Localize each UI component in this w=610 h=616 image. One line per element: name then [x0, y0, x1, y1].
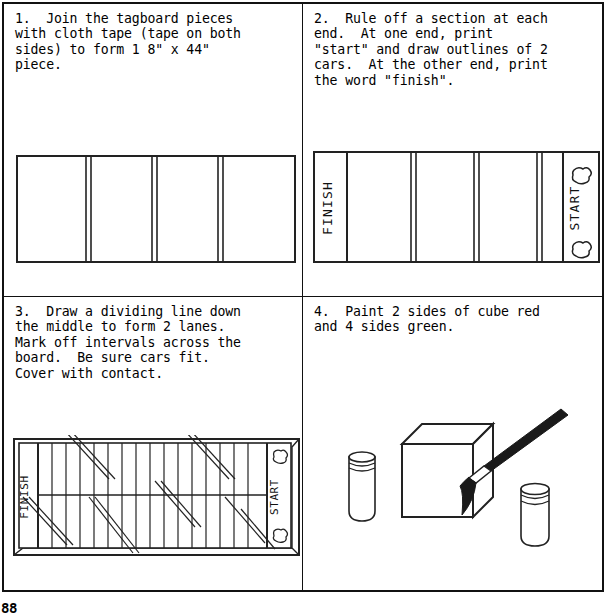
page-number: 88: [1, 601, 17, 615]
tagboard-strip-diagram: [15, 14, 300, 274]
panel-1: 1. Join the tagboard pieces with cloth t…: [4, 4, 303, 297]
finish-label: FINISH: [320, 181, 335, 235]
cube-painting-diagram: [325, 407, 585, 577]
start-label: START: [567, 185, 582, 230]
car-outline: [273, 529, 287, 542]
car-outline: [572, 168, 591, 184]
panel-4-instruction-text: 4. Paint 2 sides of cube red and 4 sides…: [314, 304, 596, 335]
car-outline: [572, 242, 591, 258]
instruction-panel-grid: 1. Join the tagboard pieces with cloth t…: [2, 2, 604, 592]
start-label: START: [268, 479, 281, 515]
panel-4: 4. Paint 2 sides of cube red and 4 sides…: [303, 297, 602, 590]
board-start-finish-diagram: FINISH START: [311, 12, 602, 274]
panel-3: 3. Draw a dividing line down the middle …: [4, 297, 303, 590]
car-outline: [273, 450, 287, 463]
board-lanes-intervals-diagram: FINISH START: [9, 435, 303, 565]
panel-2: 2. Rule off a section at each end. At on…: [303, 4, 602, 297]
finish-label: FINISH: [18, 475, 31, 518]
panel-3-instruction-text: 3. Draw a dividing line down the middle …: [15, 304, 296, 381]
paint-jar-right: [521, 484, 549, 547]
paint-jar-left: [349, 452, 375, 521]
